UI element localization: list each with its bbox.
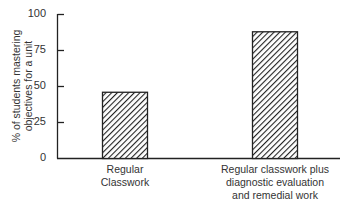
y-ticks (58, 15, 65, 123)
bar-1 (103, 92, 148, 158)
bar-2 (253, 32, 298, 159)
bars (103, 32, 298, 159)
x-category-label-2: Regular classwork plus diagnostic evalua… (204, 163, 346, 202)
bar-chart: % of students mastering objectives for a… (0, 0, 346, 210)
x-category-label-1: Regular Classwork (75, 163, 175, 189)
